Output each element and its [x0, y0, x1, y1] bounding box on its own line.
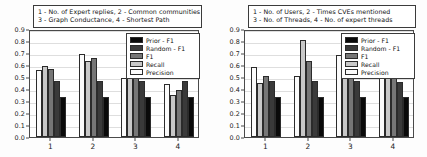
- x-axis-left: 1234: [29, 138, 199, 157]
- y-tick-label: 0.1: [15, 122, 25, 130]
- y-axis-right: 0.00.10.20.30.40.50.60.70.80.9: [213, 30, 244, 138]
- legend-swatch-icon: [130, 53, 143, 58]
- y-tick-label: 0.7: [15, 50, 25, 58]
- legend-item-label: F1: [146, 53, 153, 60]
- x-tick-mark: [92, 138, 93, 141]
- x-tick-label: 3: [348, 142, 353, 151]
- x-tick-mark: [350, 138, 351, 141]
- y-tick-label: 0.0: [15, 134, 25, 142]
- x-tick-mark: [392, 138, 393, 141]
- bar: [188, 97, 194, 137]
- bar: [275, 97, 281, 137]
- x-tick-mark: [307, 138, 308, 141]
- bar: [60, 97, 66, 137]
- legend-item[interactable]: Prior - F1: [130, 36, 197, 44]
- legend-item[interactable]: F1: [130, 52, 197, 60]
- legend-item[interactable]: Random - F1: [130, 44, 197, 52]
- bar: [318, 97, 324, 137]
- legend-swatch-icon: [345, 37, 358, 42]
- x-tick-label: 1: [263, 142, 268, 151]
- legend-item[interactable]: Precision: [130, 68, 197, 76]
- y-tick-label: 0.5: [15, 74, 25, 82]
- legend-item-label: Precision: [361, 69, 389, 76]
- y-tick-label: 0.6: [15, 62, 25, 70]
- legend-item[interactable]: Random - F1: [345, 44, 412, 52]
- bar: [403, 97, 409, 137]
- x-tick-label: 1: [48, 142, 53, 151]
- y-tick-label: 0.8: [230, 38, 240, 46]
- y-axis-left: 0.00.10.20.30.40.50.60.70.80.9: [0, 30, 29, 138]
- chart-title-line-2: 3 - No. of Threads, 4 - No. of expert th…: [253, 16, 412, 24]
- x-tick-label: 4: [390, 142, 395, 151]
- x-tick-label: 4: [175, 142, 180, 151]
- legend-left: Prior - F1Random - F1F1RecallPrecision: [126, 33, 200, 79]
- legend-item-label: Recall: [146, 61, 164, 68]
- y-tick-label: 0.6: [230, 62, 240, 70]
- y-tick-label: 0.2: [15, 110, 25, 118]
- legend-item[interactable]: Prior - F1: [345, 36, 412, 44]
- y-tick-label: 0.3: [15, 98, 25, 106]
- x-tick-label: 2: [305, 142, 310, 151]
- y-tick-label: 0.1: [230, 122, 240, 130]
- y-tick-label: 0.2: [230, 110, 240, 118]
- chart-title-box-left: 1 - No. of Expert replies, 2 - Common co…: [33, 5, 202, 28]
- legend-item[interactable]: Recall: [130, 60, 197, 68]
- y-tick-label: 0.7: [230, 50, 240, 58]
- legend-item-label: Precision: [146, 69, 174, 76]
- y-tick-label: 0.4: [15, 86, 25, 94]
- legend-item-label: Prior - F1: [146, 37, 174, 44]
- legend-swatch-icon: [130, 61, 143, 66]
- legend-item[interactable]: Recall: [345, 60, 412, 68]
- legend-item-label: F1: [361, 53, 368, 60]
- legend-swatch-icon: [130, 69, 143, 74]
- bar: [360, 97, 366, 137]
- y-tick-label: 0.0: [230, 134, 240, 142]
- x-tick-mark: [50, 138, 51, 141]
- bar: [145, 97, 151, 137]
- chart-panel-left: 0.00.10.20.30.40.50.60.70.80.9 1234 1 - …: [0, 0, 213, 157]
- y-tick-label: 0.4: [230, 86, 240, 94]
- legend-item[interactable]: Precision: [345, 68, 412, 76]
- y-tick-label: 0.9: [230, 26, 240, 34]
- chart-title-line-1: 1 - No. of Users, 2 - Times CVEs mention…: [253, 8, 412, 16]
- chart-title-box-right: 1 - No. of Users, 2 - Times CVEs mention…: [248, 5, 416, 28]
- x-tick-label: 3: [133, 142, 138, 151]
- legend-swatch-icon: [130, 45, 143, 50]
- chart-title-line-1: 1 - No. of Expert replies, 2 - Common co…: [38, 8, 198, 16]
- legend-item-label: Random - F1: [146, 45, 185, 52]
- x-tick-label: 2: [90, 142, 95, 151]
- legend-swatch-icon: [345, 45, 358, 50]
- x-tick-mark: [135, 138, 136, 141]
- legend-item[interactable]: F1: [345, 52, 412, 60]
- y-tick-label: 0.5: [230, 74, 240, 82]
- legend-swatch-icon: [345, 61, 358, 66]
- x-tick-mark: [177, 138, 178, 141]
- legend-swatch-icon: [130, 37, 143, 42]
- chart-title-line-2: 3 - Graph Conductance, 4 - Shortest Path: [38, 16, 198, 24]
- legend-item-label: Random - F1: [361, 45, 400, 52]
- chart-panel-right: 0.00.10.20.30.40.50.60.70.80.9 1234 1 - …: [213, 0, 426, 157]
- legend-item-label: Prior - F1: [361, 37, 389, 44]
- legend-right: Prior - F1Random - F1F1RecallPrecision: [341, 33, 415, 79]
- figure-container: 0.00.10.20.30.40.50.60.70.80.9 1234 1 - …: [0, 0, 427, 157]
- y-tick-label: 0.8: [15, 38, 25, 46]
- legend-item-label: Recall: [361, 61, 379, 68]
- bar: [103, 97, 109, 137]
- x-axis-right: 1234: [244, 138, 414, 157]
- y-tick-label: 0.9: [15, 26, 25, 34]
- legend-swatch-icon: [345, 53, 358, 58]
- legend-swatch-icon: [345, 69, 358, 74]
- y-tick-label: 0.3: [230, 98, 240, 106]
- x-tick-mark: [265, 138, 266, 141]
